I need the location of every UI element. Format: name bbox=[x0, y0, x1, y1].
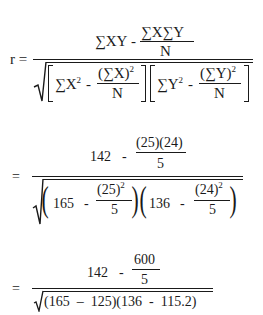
equals-sign: = bbox=[12, 282, 20, 296]
fraction-bar bbox=[140, 41, 194, 42]
minus-sign: - bbox=[84, 197, 89, 211]
minus-sign: - bbox=[119, 266, 124, 280]
minus-sign: - bbox=[86, 77, 91, 92]
value-24-squared: (24)2 bbox=[195, 183, 223, 197]
value-25-squared: (25)2 bbox=[97, 183, 125, 197]
main-fraction-bar bbox=[32, 176, 243, 177]
value-5: 5 bbox=[141, 273, 148, 287]
fraction-bar bbox=[199, 83, 241, 84]
fraction-bar bbox=[132, 269, 160, 270]
n-denominator: N bbox=[214, 86, 225, 101]
minus-sign: - bbox=[122, 150, 127, 164]
value-5: 5 bbox=[111, 203, 118, 217]
simplified-denominator: (165 – 125)(136 - 115.2) bbox=[44, 295, 196, 309]
paren-open: ( bbox=[139, 181, 146, 217]
sqrt-overline bbox=[46, 62, 253, 63]
main-fraction-bar bbox=[33, 59, 253, 60]
paren-close: ) bbox=[229, 181, 236, 217]
value-600: 600 bbox=[134, 253, 155, 267]
fraction-bar bbox=[194, 200, 230, 201]
equals-sign: = bbox=[12, 170, 20, 184]
fraction-bar bbox=[96, 200, 132, 201]
n-denominator: N bbox=[112, 86, 123, 101]
value-142: 142 bbox=[90, 150, 111, 164]
sum-xy: ∑XY bbox=[95, 34, 127, 49]
sum-x-paren-squared: (∑X)2 bbox=[98, 66, 134, 81]
sum-x-sum-y: ∑X∑Y bbox=[141, 25, 184, 40]
left-bracket-open bbox=[48, 65, 53, 102]
paren-close: ) bbox=[131, 181, 138, 217]
left-bracket-close bbox=[141, 65, 146, 102]
right-bracket-close bbox=[244, 65, 249, 102]
sqrt-overline bbox=[43, 291, 213, 292]
main-fraction-bar bbox=[32, 288, 213, 289]
sum-y-squared: ∑Y2 bbox=[157, 77, 183, 92]
value-136: 136 bbox=[149, 197, 170, 211]
product-25-24: (25)(24) bbox=[136, 136, 183, 150]
sqrt-icon bbox=[33, 61, 47, 103]
sum-y-paren-squared: (∑Y)2 bbox=[200, 66, 236, 81]
r-equals: r = bbox=[10, 52, 27, 67]
minus-sign: - bbox=[131, 34, 136, 49]
value-142: 142 bbox=[87, 266, 108, 280]
n-denominator: N bbox=[160, 44, 171, 59]
value-165: 165 bbox=[53, 197, 74, 211]
minus-sign: - bbox=[180, 197, 185, 211]
paren-open: ( bbox=[41, 181, 48, 217]
fraction-bar bbox=[136, 152, 186, 153]
sum-x-squared: ∑X2 bbox=[55, 77, 81, 92]
value-5: 5 bbox=[157, 157, 164, 171]
fraction-bar bbox=[97, 83, 139, 84]
value-5: 5 bbox=[209, 203, 216, 217]
minus-sign: - bbox=[188, 77, 193, 92]
right-bracket-open bbox=[150, 65, 155, 102]
